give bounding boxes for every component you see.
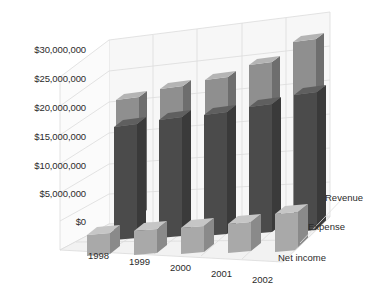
bar-expense-1999[interactable] bbox=[159, 110, 191, 238]
z-tick-label-expense: Expense bbox=[308, 221, 345, 232]
bar-expense-2000[interactable] bbox=[204, 105, 236, 236]
y-tick-label: $0 bbox=[0, 216, 86, 227]
y-tick-label: $5,000,000 bbox=[0, 188, 86, 199]
y-tick-label: $20,000,000 bbox=[0, 102, 86, 113]
x-tick-label-1998: 1998 bbox=[88, 250, 109, 261]
bar-expense-1998[interactable] bbox=[114, 117, 146, 240]
y-tick-label: $25,000,000 bbox=[0, 73, 86, 84]
x-tick-label-2001: 2001 bbox=[211, 268, 232, 279]
y-tick-label: $30,000,000 bbox=[0, 44, 86, 55]
z-tick-label-revenue: Revenue bbox=[325, 192, 363, 203]
y-tick-label: $15,000,000 bbox=[0, 131, 86, 142]
x-tick-label-1999: 1999 bbox=[129, 256, 150, 267]
x-tick-label-2000: 2000 bbox=[170, 262, 191, 273]
z-tick-label-net-income: Net income bbox=[278, 252, 326, 263]
y-tick-label: $10,000,000 bbox=[0, 160, 86, 171]
x-tick-label-2002: 2002 bbox=[252, 274, 273, 285]
chart-container: $30,000,000 $25,000,000 $20,000,000 $15,… bbox=[0, 0, 379, 292]
